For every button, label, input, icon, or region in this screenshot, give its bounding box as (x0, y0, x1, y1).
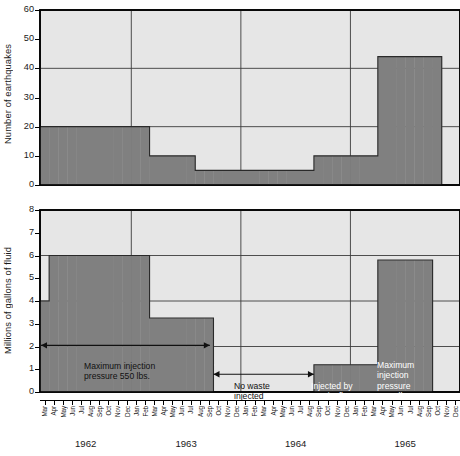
bar-segment (287, 170, 296, 185)
y-tick-label: 30 (14, 92, 34, 102)
x-month-label: May (60, 406, 67, 418)
bar-segment (95, 127, 104, 185)
bar-segment (204, 170, 213, 185)
bar-segment (296, 170, 305, 185)
bar-segment (49, 256, 58, 393)
bar-segment (177, 318, 186, 392)
bar-segment (195, 170, 204, 185)
bar-segment (186, 318, 195, 392)
y-tick-label: 50 (14, 33, 34, 43)
bar-segment (314, 156, 323, 185)
x-month-label: Mar (370, 406, 377, 417)
y-tick-label: 0 (14, 179, 34, 189)
x-year-label: 1962 (62, 438, 110, 449)
x-axis-line (40, 400, 460, 401)
annotation-max-550: Maximum injection pressure 550 lbs. (84, 361, 155, 382)
x-month-label: Mar (41, 406, 48, 417)
bar-segment (168, 318, 177, 392)
x-month-label: Mar (260, 406, 267, 417)
x-month-label: Oct (105, 406, 112, 416)
x-month-label: Oct (215, 406, 222, 416)
x-year-label: 1963 (162, 438, 210, 449)
annotation-max-1050-line1: Maximum (377, 360, 414, 370)
x-month-label: Apr (379, 406, 386, 416)
x-month-label: Dec (233, 406, 240, 417)
y-tick-label: 3 (14, 318, 34, 328)
bar-segment (414, 57, 423, 185)
annotation-gravity-flow-line1: Injected by (311, 381, 354, 391)
bar-segment (433, 57, 442, 185)
bar-segment (369, 156, 378, 185)
bar-segment (277, 170, 286, 185)
bar-segment (86, 127, 95, 185)
x-month-label: Sep (425, 406, 432, 417)
bar-segment (113, 127, 122, 185)
annotation-no-waste-line1: No waste (234, 381, 270, 391)
x-month-label: Feb (361, 406, 368, 417)
x-month-label: Sep (96, 406, 103, 417)
bar-segment (323, 156, 332, 185)
panel-waste-injected: Millions of gallons of fluid 012345678 A… (0, 200, 460, 400)
y-tick-label: 2 (14, 341, 34, 351)
bar-segment (177, 156, 186, 185)
annotation-max-1050-line2: injection (377, 370, 414, 380)
bar-segment (423, 57, 432, 185)
x-month-label: Feb (142, 406, 149, 417)
x-month-label: Jun (288, 406, 295, 416)
bar-segment (305, 170, 314, 185)
bar-segment (268, 170, 277, 185)
bar-segment (168, 156, 177, 185)
y-tick-label: 6 (14, 250, 34, 260)
bar-segment (204, 318, 213, 392)
x-month-label: Aug (87, 406, 94, 417)
x-month-label: Dec (124, 406, 131, 417)
x-month-label: Jul (407, 406, 414, 414)
earthquake-injection-figure: Number of earthquakes 0102030405060 Aver… (0, 0, 460, 456)
y-tick-label: 4 (14, 295, 34, 305)
bar-segment (341, 156, 350, 185)
x-month-label: Aug (416, 406, 423, 417)
bar-segment (360, 365, 369, 392)
x-month-label: Feb (251, 406, 258, 417)
bar-segment (104, 127, 113, 185)
bar-segment (232, 170, 241, 185)
y-tick-label: 20 (14, 121, 34, 131)
x-month-label: Oct (434, 406, 441, 416)
x-year-label: 1964 (272, 438, 320, 449)
annotation-max-1050: Maximum injection pressure 1050 lbs. (377, 360, 414, 402)
plot-area-earthquakes (40, 10, 460, 185)
x-month-label: Jan (242, 406, 249, 416)
bar-segment (159, 156, 168, 185)
x-year-label: 1965 (381, 438, 429, 449)
bar-segment (131, 127, 140, 185)
bar-segment (150, 156, 159, 185)
y-tick-label: 60 (14, 4, 34, 14)
bar-segment (360, 156, 369, 185)
bar-segment (58, 256, 67, 393)
x-month-label: Apr (160, 406, 167, 416)
x-month-label: Jun (397, 406, 404, 416)
x-month-label: Aug (306, 406, 313, 417)
x-month-label: May (388, 406, 395, 418)
y-tick-label: 0 (14, 386, 34, 396)
y-tick-label: 1 (14, 363, 34, 373)
x-month-label: May (169, 406, 176, 418)
bar-segment (259, 170, 268, 185)
x-month-label: Aug (197, 406, 204, 417)
bar-segment (58, 127, 67, 185)
bar-segment (159, 318, 168, 392)
annotation-gravity-flow: Injected by gravity flow (311, 381, 354, 402)
x-month-label: Jul (297, 406, 304, 414)
bar-segment (387, 57, 396, 185)
bar-segment (213, 170, 222, 185)
x-axis-month-labels: MarAprMayJunJulAugSepOctNovDecJanFebMarA… (0, 402, 460, 436)
y-tick-label: 8 (14, 204, 34, 214)
x-month-label: Apr (270, 406, 277, 416)
x-month-label: Nov (334, 406, 341, 417)
panel-earthquakes: Number of earthquakes 0102030405060 Aver… (0, 0, 460, 195)
annotation-max-550-line1: Maximum injection (84, 361, 155, 371)
x-month-label: Sep (315, 406, 322, 417)
x-month-label: Jan (133, 406, 140, 416)
x-month-label: Nov (114, 406, 121, 417)
x-month-label: Nov (443, 406, 450, 417)
